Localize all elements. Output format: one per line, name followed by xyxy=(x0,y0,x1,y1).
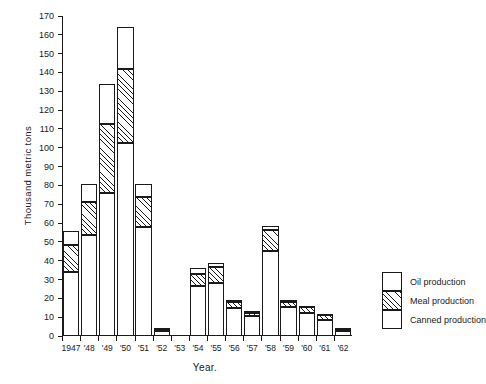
y-tick-label: 30 xyxy=(26,276,54,285)
bar-segment-meal[interactable] xyxy=(135,197,151,227)
bar-segment-canned[interactable] xyxy=(317,320,333,336)
bar-stack[interactable] xyxy=(135,16,151,336)
y-tick-label: 90 xyxy=(26,163,54,172)
bar-segment-oil[interactable] xyxy=(317,314,333,316)
x-tick-mark xyxy=(116,336,117,341)
bar-stack[interactable] xyxy=(63,16,79,336)
x-tick-label: '62 xyxy=(329,344,357,353)
x-tick-mark xyxy=(171,336,172,341)
x-tick-mark xyxy=(280,336,281,341)
y-tick-label: 150 xyxy=(26,50,54,59)
y-tick-label: 50 xyxy=(26,238,54,247)
y-tick-label: 170 xyxy=(26,12,54,21)
bar-stack[interactable] xyxy=(190,16,206,336)
bar-segment-canned[interactable] xyxy=(190,286,206,336)
bar-segment-meal[interactable] xyxy=(190,274,206,286)
y-tick-label: 120 xyxy=(26,106,54,115)
bar-segment-oil[interactable] xyxy=(208,263,224,268)
y-tick-label: 60 xyxy=(26,219,54,228)
bar-segment-oil[interactable] xyxy=(190,268,206,274)
bar-stack[interactable] xyxy=(317,16,333,336)
y-axis-title: Thousand metric tons xyxy=(22,71,33,281)
x-tick-mark xyxy=(298,336,299,341)
bar-segment-meal[interactable] xyxy=(117,69,133,143)
bar-segment-oil[interactable] xyxy=(117,27,133,68)
bar-stack[interactable] xyxy=(262,16,278,336)
legend-label-canned: Canned production xyxy=(410,315,486,325)
y-tick-label: 0 xyxy=(26,332,54,341)
y-tick-label: 140 xyxy=(26,68,54,77)
legend-swatch-canned xyxy=(382,310,402,329)
bar-stack[interactable] xyxy=(335,16,351,336)
bar-segment-oil[interactable] xyxy=(226,300,242,302)
bar-segment-canned[interactable] xyxy=(99,193,115,336)
legend-label-oil: Oil production xyxy=(410,277,466,287)
bar-stack[interactable] xyxy=(280,16,296,336)
bar-stack[interactable] xyxy=(99,16,115,336)
bar-segment-meal[interactable] xyxy=(244,313,260,316)
y-tick-label: 100 xyxy=(26,144,54,153)
bar-segment-canned[interactable] xyxy=(262,251,278,336)
legend-label-meal: Meal production xyxy=(410,296,474,306)
bar-stack[interactable] xyxy=(226,16,242,336)
x-tick-mark xyxy=(135,336,136,341)
bar-segment-canned[interactable] xyxy=(81,235,97,336)
bar-segment-canned[interactable] xyxy=(154,331,170,336)
bar-segment-meal[interactable] xyxy=(81,202,97,235)
bar-segment-meal[interactable] xyxy=(63,245,79,272)
bar-stack[interactable] xyxy=(299,16,315,336)
bar-stack[interactable] xyxy=(81,16,97,336)
bar-segment-canned[interactable] xyxy=(208,283,224,336)
bar-segment-canned[interactable] xyxy=(226,308,242,336)
bar-segment-canned[interactable] xyxy=(280,307,296,336)
y-tick-label: 40 xyxy=(26,257,54,266)
bar-segment-canned[interactable] xyxy=(244,316,260,336)
x-tick-mark xyxy=(334,336,335,341)
bar-segment-oil[interactable] xyxy=(335,328,351,330)
bar-stack[interactable] xyxy=(154,16,170,336)
y-tick-label: 70 xyxy=(26,200,54,209)
x-tick-mark xyxy=(225,336,226,341)
y-tick-label: 80 xyxy=(26,181,54,190)
bar-segment-oil[interactable] xyxy=(244,311,260,314)
x-axis-title: Year. xyxy=(60,362,350,373)
bar-segment-oil[interactable] xyxy=(81,184,97,202)
bar-segment-oil[interactable] xyxy=(154,328,170,330)
y-tick-label: 130 xyxy=(26,87,54,96)
plot-area: 0102030405060708090100110120130140150160… xyxy=(62,16,352,336)
y-tick-label: 160 xyxy=(26,31,54,40)
bar-segment-meal[interactable] xyxy=(280,302,296,307)
x-tick-mark xyxy=(98,336,99,341)
x-tick-mark xyxy=(316,336,317,341)
bar-segment-canned[interactable] xyxy=(117,143,133,336)
bar-stack[interactable] xyxy=(244,16,260,336)
bar-segment-oil[interactable] xyxy=(135,184,151,196)
bar-segment-canned[interactable] xyxy=(63,272,79,336)
bar-segment-oil[interactable] xyxy=(280,300,296,302)
legend-swatch-stack xyxy=(382,272,402,329)
bar-segment-oil[interactable] xyxy=(99,84,115,124)
bar-segment-meal[interactable] xyxy=(99,124,115,193)
x-tick-mark xyxy=(80,336,81,341)
x-tick-mark xyxy=(243,336,244,341)
bar-segment-oil[interactable] xyxy=(63,231,79,245)
bar-segment-canned[interactable] xyxy=(335,331,351,336)
legend-swatch-meal xyxy=(382,291,402,310)
x-tick-mark xyxy=(207,336,208,341)
bar-segment-oil[interactable] xyxy=(262,226,278,230)
bar-segment-oil[interactable] xyxy=(299,306,315,308)
bar-stack[interactable] xyxy=(208,16,224,336)
x-tick-mark xyxy=(261,336,262,341)
x-tick-mark xyxy=(62,336,63,341)
bar-segment-meal[interactable] xyxy=(226,302,242,308)
bar-segment-meal[interactable] xyxy=(208,267,224,283)
legend-swatch-oil xyxy=(382,272,402,291)
bar-segment-canned[interactable] xyxy=(299,313,315,336)
bar-stack[interactable] xyxy=(117,16,133,336)
y-tick-label: 10 xyxy=(26,313,54,322)
y-tick-label: 110 xyxy=(26,125,54,134)
bar-segment-meal[interactable] xyxy=(262,230,278,252)
x-tick-mark xyxy=(189,336,190,341)
bar-segment-canned[interactable] xyxy=(135,227,151,336)
